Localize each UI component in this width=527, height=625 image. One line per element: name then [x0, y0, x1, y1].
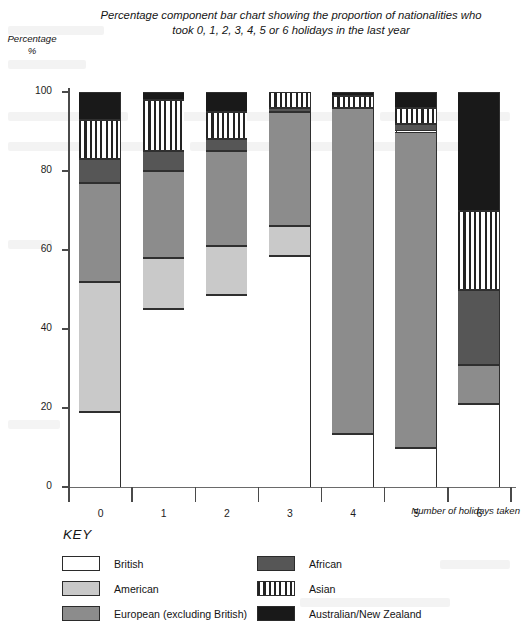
bar-segment[interactable]: [143, 171, 184, 258]
y-axis-label: Percentage %: [2, 33, 62, 57]
bar-segment[interactable]: [206, 295, 247, 487]
x-axis-label: Number of holidays taken: [330, 505, 520, 516]
y-axis-tick-label: 40: [22, 322, 52, 333]
x-axis-tick: [447, 487, 449, 502]
y-axis-tick: [62, 328, 69, 329]
x-axis-tick: [68, 487, 70, 502]
bar-segment[interactable]: [395, 108, 436, 124]
bar-segment[interactable]: [269, 108, 310, 112]
bar-segment[interactable]: [79, 120, 120, 160]
bar-segment[interactable]: [269, 226, 310, 256]
x-axis-tick: [131, 487, 133, 502]
bar-segment[interactable]: [79, 92, 120, 120]
x-axis-tick: [195, 487, 197, 502]
legend-item[interactable]: American: [62, 576, 247, 601]
legend-title: KEY: [63, 527, 92, 542]
y-axis-tick-label: 60: [22, 243, 52, 254]
legend-swatch-icon: [257, 556, 295, 571]
bar-segment[interactable]: [395, 124, 436, 132]
bar-stack[interactable]: [396, 92, 437, 487]
x-axis-tick: [510, 487, 512, 502]
plot-area: 0204060801000123456: [69, 92, 511, 487]
bar-stack[interactable]: [80, 92, 121, 487]
bar-segment[interactable]: [206, 151, 247, 246]
legend-swatch-icon: [62, 556, 100, 571]
bar-segment[interactable]: [143, 100, 184, 151]
legend-item[interactable]: European (excluding British): [62, 601, 247, 625]
bar-segment[interactable]: [79, 159, 120, 183]
x-axis-tick: [384, 487, 386, 502]
legend-item-label: African: [309, 558, 342, 570]
legend-item-label: American: [114, 583, 159, 595]
x-axis-tick-label: 3: [270, 508, 310, 519]
bar-segment[interactable]: [458, 92, 499, 211]
bar-segment[interactable]: [79, 183, 120, 282]
bar-segment[interactable]: [143, 151, 184, 171]
bar-segment[interactable]: [143, 309, 184, 487]
bar-stack[interactable]: [270, 92, 311, 487]
x-axis-tick-label: 0: [81, 508, 121, 519]
y-axis-tick: [62, 249, 69, 250]
y-axis-tick: [62, 407, 69, 408]
legend-swatch-icon: [62, 581, 100, 596]
bar-segment[interactable]: [143, 92, 184, 100]
legend-item[interactable]: British: [62, 551, 247, 576]
bar-segment[interactable]: [395, 132, 436, 448]
bar-stack[interactable]: [206, 92, 247, 487]
bar-stack[interactable]: [333, 92, 374, 487]
y-axis-tick-label: 0: [22, 480, 52, 491]
bar-segment[interactable]: [458, 404, 499, 487]
x-axis-tick-label: 1: [144, 508, 184, 519]
legend-column-right: AfricanAsianAustralian/New Zealand: [257, 551, 421, 625]
legend-item-label: Australian/New Zealand: [309, 608, 421, 620]
legend-swatch-icon: [62, 606, 100, 621]
y-axis-tick-label: 100: [22, 85, 52, 96]
legend-swatch-icon: [257, 606, 295, 621]
legend-item[interactable]: Asian: [257, 576, 421, 601]
bar-segment[interactable]: [206, 92, 247, 112]
bar-segment[interactable]: [206, 139, 247, 151]
legend-item[interactable]: Australian/New Zealand: [257, 601, 421, 625]
bar-segment[interactable]: [458, 290, 499, 365]
legend-item-label: European (excluding British): [114, 608, 247, 620]
bar-stack[interactable]: [459, 92, 500, 487]
bar-stack[interactable]: [143, 92, 184, 487]
bar-segment[interactable]: [143, 258, 184, 309]
bar-segment[interactable]: [332, 96, 373, 108]
bar-segment[interactable]: [206, 246, 247, 295]
y-axis-tick: [62, 91, 69, 92]
legend-column-left: BritishAmericanEuropean (excluding Briti…: [62, 551, 247, 625]
bar-segment[interactable]: [458, 365, 499, 405]
y-axis-tick-label: 80: [22, 164, 52, 175]
bar-segment[interactable]: [395, 92, 436, 108]
legend-item-label: Asian: [309, 583, 336, 595]
bar-segment[interactable]: [269, 112, 310, 227]
bar-segment[interactable]: [269, 92, 310, 108]
x-axis-tick-label: 2: [207, 508, 247, 519]
y-axis-tick-label: 20: [22, 401, 52, 412]
bar-segment[interactable]: [332, 92, 373, 96]
chart-title: Percentage component bar chart showing t…: [96, 8, 486, 38]
bar-segment[interactable]: [332, 108, 373, 434]
legend-item[interactable]: African: [257, 551, 421, 576]
bar-segment[interactable]: [332, 434, 373, 487]
legend-item-label: British: [114, 558, 143, 570]
legend-swatch-icon: [257, 581, 295, 596]
y-axis-label-line2: %: [2, 45, 62, 57]
bar-segment[interactable]: [79, 412, 120, 487]
y-axis-label-line1: Percentage: [2, 33, 62, 45]
x-axis-tick: [321, 487, 323, 502]
bar-segment[interactable]: [206, 112, 247, 140]
bar-segment[interactable]: [458, 211, 499, 290]
bar-segment[interactable]: [79, 282, 120, 412]
y-axis-tick: [62, 170, 69, 171]
bar-segment[interactable]: [269, 256, 310, 487]
bar-segment[interactable]: [395, 448, 436, 488]
x-axis-tick: [258, 487, 260, 502]
